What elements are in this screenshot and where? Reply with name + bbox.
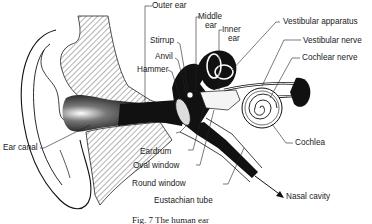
nerve-bundle-end — [290, 78, 310, 107]
label-middle-ear-line2: ear — [205, 22, 217, 30]
label-middle-ear-line1: Middle — [198, 13, 222, 21]
ear-anatomy-diagram: Outer ear Middle ear Inner ear Stirrup A… — [0, 0, 372, 224]
label-nasal-cavity: Nasal cavity — [286, 193, 330, 201]
label-stirrup: Stirrup — [150, 37, 174, 45]
label-eardrum: Eardrum — [140, 148, 171, 156]
figure-caption: Fig. 7 The human ear — [132, 215, 209, 224]
label-eustachian-tube: Eustachian tube — [154, 197, 213, 205]
label-ear-canal: Ear canal — [3, 144, 38, 152]
label-outer-ear: Outer ear — [152, 2, 187, 10]
ear-illustration — [0, 0, 372, 224]
cochlea-spiral — [242, 88, 282, 128]
label-oval-window: Oval window — [133, 162, 179, 170]
label-vestibular-nerve: Vestibular nerve — [303, 37, 362, 45]
pinna-inner-fold — [34, 44, 62, 185]
label-hammer: Hammer — [137, 66, 168, 74]
label-anvil: Anvil — [155, 53, 173, 61]
label-cochlear-nerve: Cochlear nerve — [302, 54, 358, 62]
label-cochlea: Cochlea — [295, 139, 325, 147]
semicircular-canals — [198, 51, 236, 90]
label-vestibular-apparatus: Vestibular apparatus — [283, 18, 358, 26]
label-round-window: Round window — [132, 180, 186, 188]
label-inner-ear-line1: Inner — [222, 26, 241, 34]
label-inner-ear-line2: ear — [228, 35, 240, 43]
eustachian-tube-shape — [186, 122, 258, 178]
